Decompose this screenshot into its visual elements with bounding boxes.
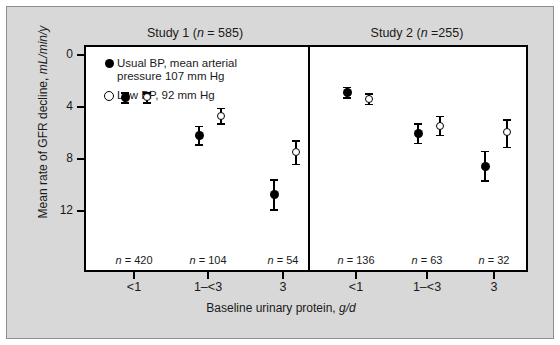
n-label-italic: n bbox=[189, 254, 195, 266]
sample-size-label: n = 63 bbox=[392, 254, 462, 266]
panel-title-study-1-suffix: = 585) bbox=[204, 26, 243, 40]
x-axis-label-units: g/d bbox=[339, 301, 356, 315]
filled-circle-marker bbox=[414, 129, 423, 138]
error-bar-cap bbox=[436, 135, 444, 137]
x-tick-label: <1 bbox=[326, 280, 386, 294]
n-label-italic: n bbox=[115, 254, 121, 266]
error-bar-cap bbox=[195, 144, 203, 146]
x-tick-label: <1 bbox=[104, 280, 164, 294]
error-bar-cap bbox=[503, 147, 511, 149]
n-label-italic: n bbox=[479, 254, 485, 266]
sample-size-label: n = 136 bbox=[321, 254, 391, 266]
filled-circle-marker bbox=[481, 162, 490, 171]
n-label-italic: n bbox=[268, 254, 274, 266]
sample-size-label: n = 104 bbox=[173, 254, 243, 266]
error-bar-cap bbox=[436, 116, 444, 118]
error-bar-cap bbox=[481, 180, 489, 182]
y-tick-mark bbox=[77, 210, 84, 212]
error-bar-cap bbox=[143, 102, 151, 104]
panel-divider bbox=[308, 47, 310, 270]
filled-circle-marker bbox=[270, 190, 279, 199]
panel-title-study-2-suffix: =255) bbox=[428, 26, 464, 40]
error-bar-cap bbox=[343, 97, 351, 99]
open-circle-marker bbox=[292, 148, 300, 156]
x-tick-label: 1–<3 bbox=[178, 280, 238, 294]
filled-circle-marker bbox=[343, 88, 352, 97]
error-bar-cap bbox=[503, 119, 511, 121]
panel-title-study-2-prefix: Study 2 ( bbox=[371, 26, 421, 40]
sample-size-label: n = 32 bbox=[459, 254, 529, 266]
y-tick-label: 4 bbox=[47, 99, 73, 113]
open-circle-marker bbox=[436, 122, 444, 130]
x-tick-label: 3 bbox=[464, 280, 524, 294]
open-circle-marker bbox=[217, 112, 225, 120]
error-bar-cap bbox=[121, 102, 129, 104]
filled-circle-marker bbox=[195, 131, 204, 140]
panel-title-study-1: Study 1 (n = 585) bbox=[84, 23, 306, 43]
error-bar-cap bbox=[365, 104, 373, 106]
panel-title-study-2: Study 2 (n =255) bbox=[306, 23, 528, 43]
error-bar-cap bbox=[270, 179, 278, 181]
y-tick-mark bbox=[77, 158, 84, 160]
error-bar-cap bbox=[270, 209, 278, 211]
sample-size-label: n = 420 bbox=[99, 254, 169, 266]
error-bar-cap bbox=[217, 108, 225, 110]
x-tick-mark bbox=[493, 272, 495, 279]
x-tick-label: 3 bbox=[253, 280, 313, 294]
y-tick-label: 12 bbox=[47, 203, 73, 217]
x-axis-label-text: Baseline urinary protein, bbox=[206, 301, 339, 315]
panel-title-study-1-prefix: Study 1 ( bbox=[147, 26, 197, 40]
error-bar-cap bbox=[414, 143, 422, 145]
legend-item-low-bp-label: Low BP, 92 mm Hg bbox=[117, 89, 215, 102]
error-bar-cap bbox=[217, 123, 225, 125]
legend-item-usual-bp-label: Usual BP, mean arterial pressure 107 mm … bbox=[117, 57, 237, 83]
y-tick-label: 8 bbox=[47, 151, 73, 165]
legend-item-usual-bp: Usual BP, mean arterial pressure 107 mm … bbox=[101, 57, 237, 83]
sample-size-label: n = 54 bbox=[248, 254, 318, 266]
x-tick-mark bbox=[207, 272, 209, 279]
error-bar-cap bbox=[481, 151, 489, 153]
x-tick-mark bbox=[133, 272, 135, 279]
x-axis-label: Baseline urinary protein, g/d bbox=[7, 301, 555, 315]
filled-circle-icon bbox=[101, 57, 117, 68]
error-bar-cap bbox=[414, 123, 422, 125]
y-tick-mark bbox=[77, 106, 84, 108]
error-bar-cap bbox=[195, 126, 203, 128]
error-bar-cap bbox=[292, 164, 300, 166]
n-label-italic: n bbox=[412, 254, 418, 266]
filled-circle-marker bbox=[121, 93, 130, 102]
y-tick-mark bbox=[77, 54, 84, 56]
y-axis-label-text: Mean rate of GFR decline, bbox=[36, 74, 50, 218]
title-separator bbox=[306, 19, 307, 47]
plot-area: Usual BP, mean arterial pressure 107 mm … bbox=[84, 45, 528, 272]
open-circle-marker bbox=[365, 95, 373, 103]
x-tick-mark bbox=[355, 272, 357, 279]
x-tick-label: 1–<3 bbox=[397, 280, 457, 294]
open-circle-icon bbox=[101, 89, 117, 101]
error-bar-cap bbox=[292, 140, 300, 142]
figure-panel: Study 1 (n = 585) Study 2 (n =255) Mean … bbox=[6, 6, 554, 339]
open-circle-marker bbox=[503, 128, 511, 136]
y-tick-label: 0 bbox=[47, 47, 73, 61]
panel-title-study-2-n: n bbox=[421, 26, 428, 40]
x-tick-mark bbox=[426, 272, 428, 279]
n-label-italic: n bbox=[337, 254, 343, 266]
panel-title-study-1-n: n bbox=[197, 26, 204, 40]
x-tick-mark bbox=[282, 272, 284, 279]
